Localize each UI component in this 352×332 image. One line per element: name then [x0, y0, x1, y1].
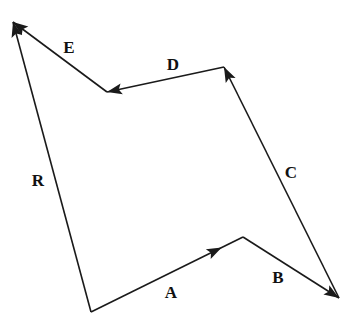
label-A: A	[165, 283, 178, 302]
vector-C	[224, 67, 339, 298]
vector-R	[13, 22, 91, 312]
label-E: E	[63, 38, 74, 57]
label-B: B	[272, 268, 283, 287]
label-C: C	[285, 163, 297, 182]
label-D: D	[167, 55, 179, 74]
vector-E	[13, 22, 107, 92]
arrowhead-C-icon	[224, 67, 236, 83]
label-R: R	[32, 171, 45, 190]
vector-diagram: A B C D E R	[0, 0, 352, 332]
vector-D	[107, 67, 224, 92]
